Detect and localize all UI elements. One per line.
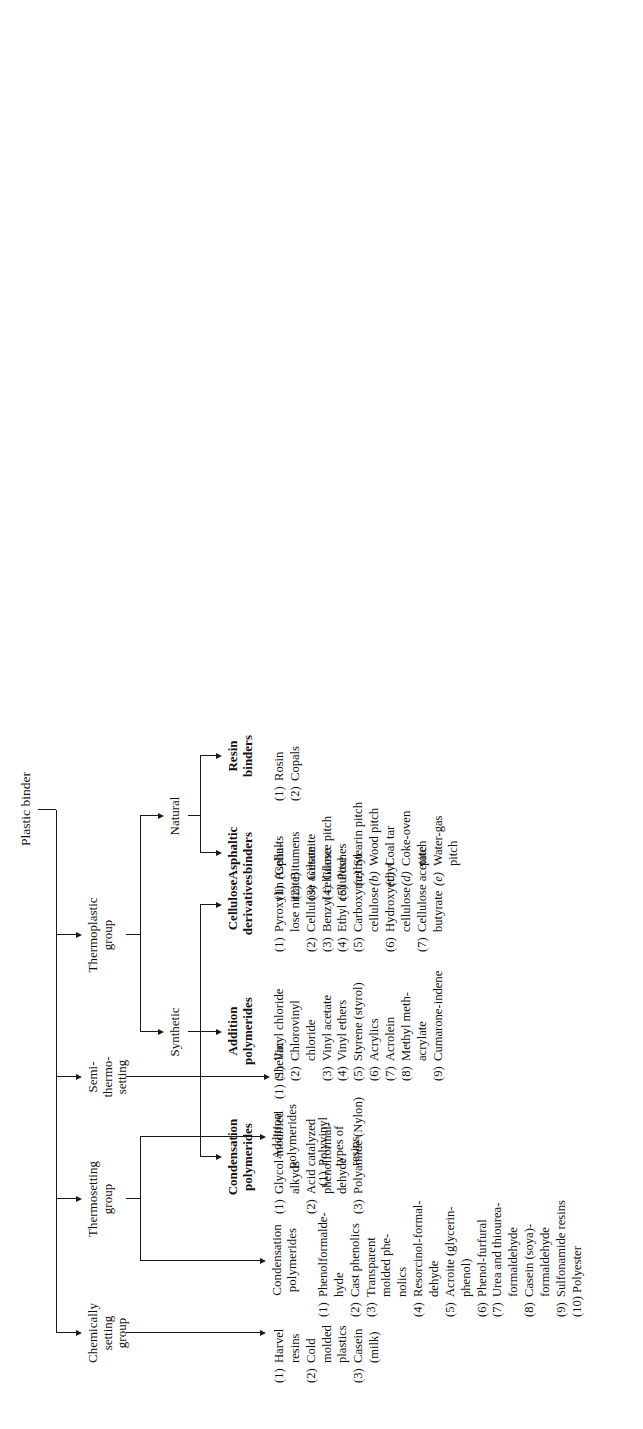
arrow-chemical-leaf-icon [260, 1330, 266, 1336]
list-item: (9)Sulfonamide resins [554, 1157, 570, 1317]
thermoplastic-stem [126, 934, 140, 935]
arrow-cellulose-icon [216, 902, 222, 908]
connector-ts-addition [140, 1136, 262, 1137]
thermosetting-stem [126, 1198, 140, 1199]
arrow-ts-addition-icon [260, 1134, 266, 1140]
node-natural-label: Natural [168, 771, 183, 861]
list-item: (10)Polyester [570, 1157, 586, 1317]
list-item: (6)Hydroxyethyl cellulose [383, 807, 415, 952]
connector-natural [140, 815, 160, 816]
node-resin-binders-label: Resin binders [226, 711, 255, 801]
node-resin-binders: Resin binders [226, 711, 255, 801]
node-tp-condensation-label: Condensation polymerides [226, 1100, 255, 1214]
node-semi: Semi- thermo- setting [86, 1027, 130, 1127]
list-semi: (1)Shellac [272, 989, 288, 1099]
root-stem [38, 809, 56, 810]
list-item: (1)Pyroxylin (Cellu- lose nitrate) [272, 807, 304, 952]
list-item: (1)Shellac [272, 989, 288, 1099]
node-natural: Natural [168, 771, 183, 861]
arrow-thermoplastic-icon [76, 932, 82, 938]
node-cellulose-derivatives: Cellulose derivatives [226, 858, 255, 952]
arrow-semi-icon [76, 1074, 82, 1080]
list-item: (9)Cumarone-indene [431, 936, 447, 1081]
arrow-tp-condensation-icon [216, 1154, 222, 1160]
list-item: (4)Resorcinol-formal- dehyde [411, 1157, 443, 1317]
node-semi-label: Semi- thermo- setting [86, 1027, 130, 1127]
list-item: (5)Carboxymethyl cellulose [351, 807, 383, 952]
arrow-semi-leaf-icon [264, 1074, 270, 1080]
root-node: Plastic binder [18, 749, 33, 869]
node-thermoplastic-label: Thermoplastic group [86, 885, 115, 985]
connector-ts-condensation [140, 1260, 262, 1261]
node-thermosetting: Thermosetting group [86, 1144, 115, 1254]
list-item: (4)Ethyl cellulose [335, 807, 351, 952]
arrow-thermosetting-icon [76, 1196, 82, 1202]
arrow-synthetic-icon [158, 1029, 164, 1035]
arrow-chemical-icon [76, 1330, 82, 1336]
list-item: (3)Benzyl cellulose [320, 807, 336, 952]
connector-thermosetting [56, 1198, 78, 1199]
chemical-stem [126, 1332, 262, 1333]
connector-semi [56, 1076, 78, 1077]
list-item: (7)Urea and thiourea- formaldehyde [490, 1157, 522, 1317]
thermosetting-spine [140, 1136, 141, 1261]
natural-stem [188, 815, 200, 816]
arrow-natural-icon [158, 813, 164, 819]
list-item: (8)Casein (soya)- formaldehyde [522, 1157, 554, 1317]
list-item: (2)Cellulose acetate [304, 807, 320, 952]
node-thermoplastic: Thermoplastic group [86, 885, 115, 985]
root-label: Plastic binder [18, 749, 33, 869]
node-cellulose-derivatives-label: Cellulose derivatives [226, 858, 255, 952]
list-item: (1)Harvel resins [272, 1273, 304, 1383]
figure-canvas: Plastic binder Thermoplastic group Semi-… [0, 0, 643, 1429]
arrow-asphaltic-icon [216, 850, 222, 856]
node-synthetic-label: Synthetic [168, 987, 183, 1077]
list-item: (8)Methyl meth- acrylate [399, 936, 431, 1081]
list-item: (5)Acroite (glycerin- phenol) [443, 1157, 475, 1317]
list-chemical: (1)Harvel resins (2)Cold molded plastics… [272, 1273, 383, 1383]
list-item: (7)Acrolein [383, 936, 399, 1081]
node-tp-condensation: Condensation polymerides [226, 1100, 255, 1214]
node-synthetic: Synthetic [168, 987, 183, 1077]
node-chemical-label: Chemically setting group [86, 1283, 130, 1383]
connector-chemical [56, 1332, 78, 1333]
natural-spine [200, 755, 201, 853]
semi-stem [126, 1076, 266, 1077]
connector-synthetic [140, 1031, 160, 1032]
connector-thermoplastic [56, 934, 78, 935]
node-thermosetting-label: Thermosetting group [86, 1144, 115, 1254]
thermoplastic-spine [140, 816, 141, 1032]
arrow-tp-addition-icon [216, 1029, 222, 1035]
list-item: (2)Cold molded plastics [304, 1273, 352, 1383]
node-chemical: Chemically setting group [86, 1283, 130, 1383]
list-item: (7)Cellulose acetate butyrate [415, 807, 447, 952]
list-item: (6)Phenol-furfural [475, 1157, 491, 1317]
node-tp-addition: Addition polymerides [226, 981, 255, 1081]
list-cellulose-derivatives: (1)Pyroxylin (Cellu- lose nitrate) (2)Ce… [272, 807, 446, 952]
arrow-ts-condensation-icon [260, 1258, 266, 1264]
list-item: (6)Acrylics [367, 936, 383, 1081]
node-tp-addition-label: Addition polymerides [226, 981, 255, 1081]
arrow-resin-icon [216, 753, 222, 759]
level1-spine [56, 810, 57, 1333]
synthetic-stem [188, 1031, 200, 1032]
list-item: (3)Casein (milk) [351, 1273, 383, 1383]
